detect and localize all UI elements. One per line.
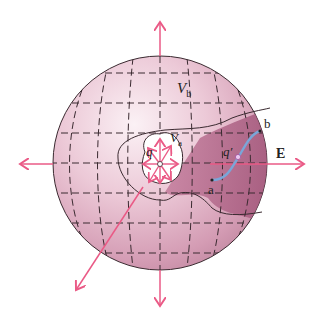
label-source-charge: q [146, 144, 153, 160]
label-point-a: a [208, 182, 214, 198]
point-b-dot [258, 129, 261, 132]
label-test-charge: q′ [223, 144, 232, 160]
outer-potential-symbol: V [177, 80, 186, 96]
label-inner-potential: Va [170, 130, 182, 148]
label-outer-potential: Vb [177, 80, 191, 99]
label-field-e: E [276, 146, 285, 162]
electric-potential-diagram [0, 0, 323, 322]
inner-potential-symbol: V [170, 130, 178, 145]
outer-potential-subscript: b [186, 88, 191, 99]
test-charge-q-prime [235, 154, 240, 159]
source-charge-q [158, 162, 163, 167]
label-point-b: b [264, 116, 271, 132]
inner-potential-subscript: a [178, 138, 182, 148]
